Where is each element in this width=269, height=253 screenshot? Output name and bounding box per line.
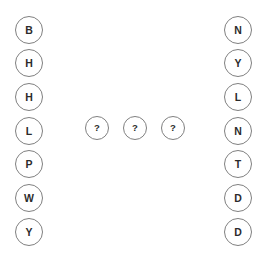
right-node-2[interactable]: Y <box>224 49 252 77</box>
right-node-5-label: T <box>235 159 241 170</box>
left-node-1[interactable]: B <box>15 16 43 44</box>
right-node-2-label: Y <box>234 58 241 69</box>
left-node-5-label: P <box>25 159 32 170</box>
center-node-3[interactable]: ? <box>161 116 185 140</box>
right-node-3-label: L <box>235 92 241 103</box>
right-node-7-label: D <box>234 227 242 238</box>
center-node-3-label: ? <box>170 123 176 133</box>
right-node-4[interactable]: N <box>224 117 252 145</box>
right-node-4-label: N <box>234 126 242 137</box>
left-node-1-label: B <box>25 25 33 36</box>
diagram-canvas: BHHLPWY ??? NYLNTDD <box>0 0 269 253</box>
right-node-7[interactable]: D <box>224 218 252 246</box>
left-node-4[interactable]: L <box>15 117 43 145</box>
right-node-3[interactable]: L <box>224 83 252 111</box>
left-node-5[interactable]: P <box>15 150 43 178</box>
center-node-1[interactable]: ? <box>85 116 109 140</box>
center-node-2-label: ? <box>132 123 138 133</box>
center-node-2[interactable]: ? <box>123 116 147 140</box>
left-node-6-label: W <box>24 193 34 204</box>
right-node-1[interactable]: N <box>224 16 252 44</box>
left-node-2[interactable]: H <box>15 49 43 77</box>
left-node-3[interactable]: H <box>15 83 43 111</box>
right-node-1-label: N <box>234 25 242 36</box>
right-node-6[interactable]: D <box>224 184 252 212</box>
left-node-4-label: L <box>26 126 32 137</box>
left-node-7-label: Y <box>25 227 32 238</box>
left-node-3-label: H <box>25 92 33 103</box>
center-node-1-label: ? <box>94 123 100 133</box>
left-node-2-label: H <box>25 58 33 69</box>
right-node-5[interactable]: T <box>224 150 252 178</box>
right-node-6-label: D <box>234 193 242 204</box>
left-node-6[interactable]: W <box>15 184 43 212</box>
left-node-7[interactable]: Y <box>15 218 43 246</box>
